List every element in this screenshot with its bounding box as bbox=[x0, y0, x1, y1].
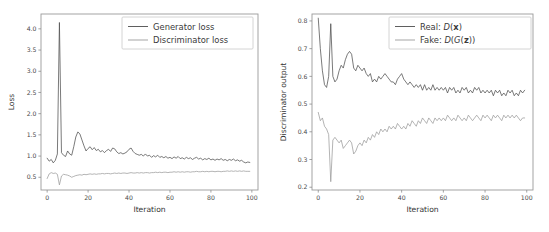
y-tick-label: 0.5 bbox=[298, 100, 308, 107]
x-tick-label: 0 bbox=[45, 194, 49, 201]
x-tick-label: 60 bbox=[439, 194, 447, 201]
y-tick-label: 0.7 bbox=[298, 45, 308, 52]
x-tick-label: 40 bbox=[125, 194, 133, 201]
y-tick-label: 2.5 bbox=[27, 89, 37, 96]
y-axis-label: Loss bbox=[7, 94, 16, 111]
x-tick-label: 20 bbox=[84, 194, 92, 201]
y-tick-label: 3.0 bbox=[27, 67, 37, 74]
legend-label-1: Real: D(x) bbox=[420, 22, 462, 32]
y-axis-label: Discriminator output bbox=[279, 63, 288, 142]
x-tick-label: 100 bbox=[246, 194, 258, 201]
x-axis-label: Iteration bbox=[406, 205, 438, 214]
gan-training-figure: 0204060801000.51.01.52.02.53.03.54.0Iter… bbox=[0, 0, 549, 232]
y-tick-label: 0.4 bbox=[298, 128, 308, 135]
y-tick-label: 2.0 bbox=[27, 110, 37, 117]
legend-label-2: Fake: D(G(z)) bbox=[420, 35, 475, 45]
x-tick-label: 40 bbox=[398, 194, 406, 201]
x-tick-label: 80 bbox=[207, 194, 215, 201]
y-tick-label: 0.8 bbox=[298, 17, 308, 24]
x-tick-label: 80 bbox=[481, 194, 489, 201]
y-tick-label: 3.5 bbox=[27, 46, 37, 53]
y-tick-label: 4.0 bbox=[27, 25, 37, 32]
loss-chart-panel: 0204060801000.51.01.52.02.53.03.54.0Iter… bbox=[0, 0, 274, 232]
discriminator-output-chart: 0204060801000.20.30.40.50.60.70.8Iterati… bbox=[275, 0, 549, 232]
series-line-2 bbox=[47, 171, 250, 185]
y-tick-label: 0.2 bbox=[298, 183, 308, 190]
legend-label-2: Discriminator loss bbox=[153, 35, 228, 45]
y-tick-label: 1.5 bbox=[27, 131, 37, 138]
x-tick-label: 60 bbox=[166, 194, 174, 201]
loss-chart: 0204060801000.51.01.52.02.53.03.54.0Iter… bbox=[0, 0, 274, 232]
y-tick-label: 0.6 bbox=[298, 73, 308, 80]
series-line-2 bbox=[318, 112, 524, 181]
y-tick-label: 0.5 bbox=[27, 173, 37, 180]
discriminator-output-chart-panel: 0204060801000.20.30.40.50.60.70.8Iterati… bbox=[275, 0, 549, 232]
legend-label-1: Generator loss bbox=[153, 22, 214, 32]
y-tick-label: 1.0 bbox=[27, 152, 37, 159]
x-axis-label: Iteration bbox=[133, 205, 165, 214]
x-tick-label: 0 bbox=[316, 194, 320, 201]
y-tick-label: 0.3 bbox=[298, 156, 308, 163]
x-tick-label: 20 bbox=[356, 194, 364, 201]
x-tick-label: 100 bbox=[521, 194, 533, 201]
